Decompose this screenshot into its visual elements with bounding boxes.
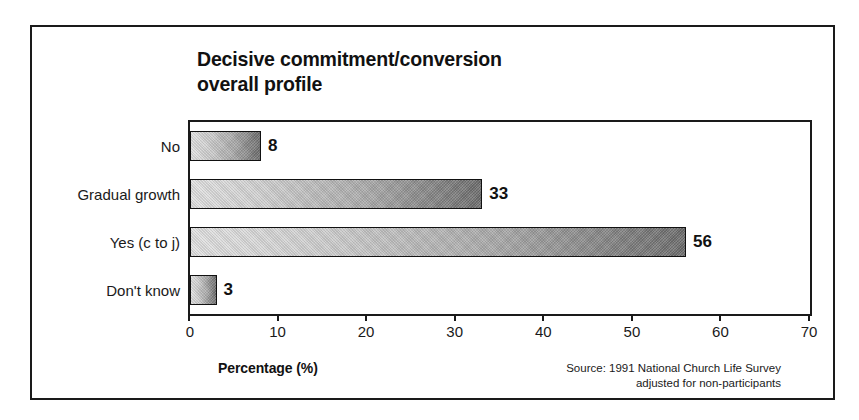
x-tick-mark bbox=[188, 314, 190, 321]
figure-frame: Decisive commitment/conversion overall p… bbox=[30, 25, 835, 400]
x-tick-mark bbox=[631, 314, 633, 321]
bar-gradual-growth[interactable]: 33 bbox=[190, 179, 482, 209]
category-label-no: No bbox=[161, 138, 180, 155]
bar-dont-know[interactable]: 3 bbox=[190, 275, 217, 305]
bar-row: Gradual growth 33 bbox=[190, 170, 810, 218]
bar-value-dont-know: 3 bbox=[224, 280, 233, 300]
x-tick-label: 20 bbox=[358, 323, 375, 340]
category-label-yes-c-to-j: Yes (c to j) bbox=[110, 234, 180, 251]
x-tick-mark bbox=[454, 314, 456, 321]
bar-row: Don't know 3 bbox=[190, 266, 810, 314]
x-tick-label: 40 bbox=[535, 323, 552, 340]
plot-area: No 8 Gradual growth 33 Yes (c to j) 56 D… bbox=[188, 120, 812, 316]
bar-row: No 8 bbox=[190, 122, 810, 170]
x-tick-label: 70 bbox=[801, 323, 818, 340]
source-note: Source: 1991 National Church Life Survey… bbox=[566, 361, 781, 391]
x-tick-mark bbox=[808, 314, 810, 321]
chart-title: Decisive commitment/conversion overall p… bbox=[197, 47, 718, 97]
category-label-dont-know: Don't know bbox=[106, 282, 180, 299]
x-tick-label: 10 bbox=[269, 323, 286, 340]
x-tick-mark bbox=[277, 314, 279, 321]
x-tick-label: 60 bbox=[712, 323, 729, 340]
bar-value-gradual-growth: 33 bbox=[489, 184, 508, 204]
bar-value-no: 8 bbox=[268, 136, 277, 156]
x-axis: 0 10 20 30 40 50 60 70 bbox=[188, 314, 812, 348]
x-tick-mark bbox=[542, 314, 544, 321]
bar-value-yes-c-to-j: 56 bbox=[693, 232, 712, 252]
bar-yes-c-to-j[interactable]: 56 bbox=[190, 227, 686, 257]
x-tick-label: 50 bbox=[624, 323, 641, 340]
x-tick-mark bbox=[365, 314, 367, 321]
bar-row: Yes (c to j) 56 bbox=[190, 218, 810, 266]
x-axis-title: Percentage (%) bbox=[218, 360, 318, 376]
x-tick-label: 0 bbox=[186, 323, 194, 340]
bar-no[interactable]: 8 bbox=[190, 131, 261, 161]
category-label-gradual-growth: Gradual growth bbox=[77, 186, 180, 203]
x-tick-mark bbox=[719, 314, 721, 321]
x-tick-label: 30 bbox=[446, 323, 463, 340]
